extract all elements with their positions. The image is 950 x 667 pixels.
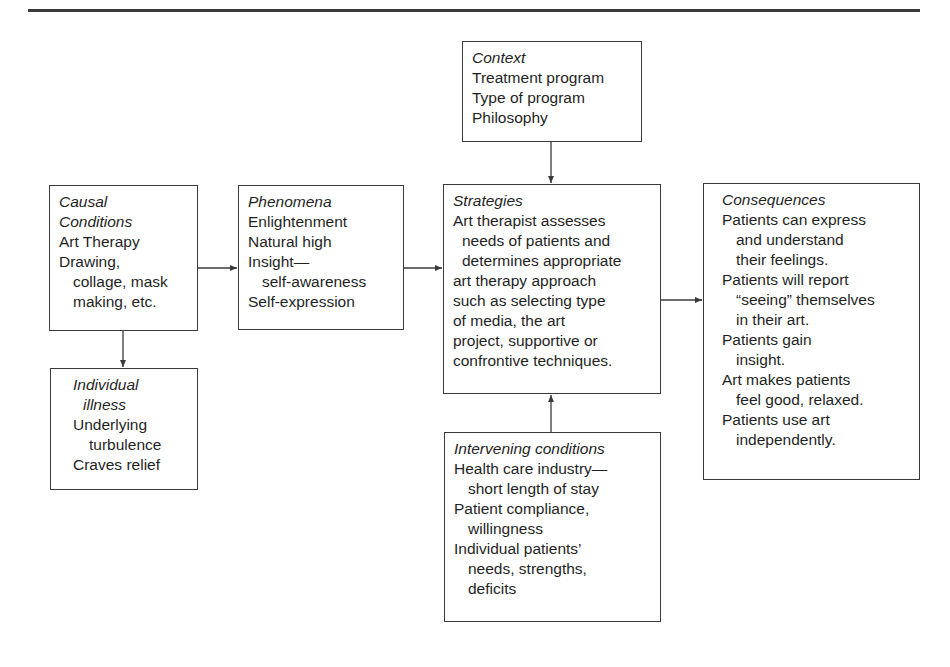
causal-line: Art Therapy	[59, 232, 189, 252]
causal-title-line: Conditions	[59, 212, 189, 232]
strategies-title: Strategies	[453, 191, 652, 211]
phenomena-title: Phenomena	[248, 192, 395, 212]
intervening-conditions-box: Intervening conditions Health care indus…	[444, 432, 661, 622]
consequences-line: their feelings.	[722, 250, 911, 270]
phenomena-line: Enlightenment	[248, 212, 395, 232]
consequences-line: and understand	[722, 230, 911, 250]
causal-title-line: Causal	[59, 192, 189, 212]
consequences-line: insight.	[722, 350, 911, 370]
individual-line: turbulence	[73, 435, 189, 455]
causal-line: making, etc.	[59, 292, 189, 312]
consequences-line: in their art.	[722, 310, 911, 330]
strategies-line: needs of patients and	[453, 231, 652, 251]
strategies-line: determines appropriate	[453, 251, 652, 271]
causal-conditions-box: Causal Conditions Art Therapy Drawing, c…	[49, 185, 198, 331]
phenomena-line: Natural high	[248, 232, 395, 252]
strategies-line: art therapy approach	[453, 271, 652, 291]
individual-title-line: illness	[73, 395, 189, 415]
intervening-line: needs, strengths,	[454, 559, 652, 579]
consequences-line: Art makes patients	[722, 370, 911, 390]
consequences-box: Consequences Patients can express and un…	[703, 183, 920, 480]
phenomena-line: Self-expression	[248, 292, 395, 312]
individual-title-line: Individual	[73, 375, 189, 395]
intervening-line: willingness	[454, 519, 652, 539]
intervening-line: Health care industry—	[454, 459, 652, 479]
consequences-line: Patients will report	[722, 270, 911, 290]
consequences-line: Patients gain	[722, 330, 911, 350]
intervening-line: deficits	[454, 579, 652, 599]
intervening-title: Intervening conditions	[454, 439, 652, 459]
context-line: Philosophy	[472, 108, 633, 128]
strategies-line: confrontive techniques.	[453, 351, 652, 371]
consequences-line: “seeing” themselves	[722, 290, 911, 310]
consequences-line: feel good, relaxed.	[722, 390, 911, 410]
context-box: Context Treatment program Type of progra…	[462, 41, 642, 142]
consequences-line: Patients use art	[722, 410, 911, 430]
strategies-line: Art therapist assesses	[453, 211, 652, 231]
strategies-line: project, supportive or	[453, 331, 652, 351]
intervening-line: Individual patients’	[454, 539, 652, 559]
context-line: Type of program	[472, 88, 633, 108]
individual-line: Underlying	[73, 415, 189, 435]
top-rule	[28, 9, 920, 12]
phenomena-box: Phenomena Enlightenment Natural high Ins…	[238, 185, 404, 330]
strategies-line: such as selecting type	[453, 291, 652, 311]
intervening-line: short length of stay	[454, 479, 652, 499]
individual-illness-box: Individual illness Underlying turbulence…	[50, 368, 198, 490]
intervening-line: Patient compliance,	[454, 499, 652, 519]
individual-line: Craves relief	[73, 455, 189, 475]
phenomena-line: Insight—	[248, 252, 395, 272]
context-line: Treatment program	[472, 68, 633, 88]
causal-line: collage, mask	[59, 272, 189, 292]
consequences-line: Patients can express	[722, 210, 911, 230]
phenomena-line: self-awareness	[248, 272, 395, 292]
context-title: Context	[472, 48, 633, 68]
causal-line: Drawing,	[59, 252, 189, 272]
strategies-line: of media, the art	[453, 311, 652, 331]
consequences-line: independently.	[722, 430, 911, 450]
strategies-box: Strategies Art therapist assesses needs …	[443, 184, 661, 394]
consequences-title: Consequences	[722, 190, 911, 210]
